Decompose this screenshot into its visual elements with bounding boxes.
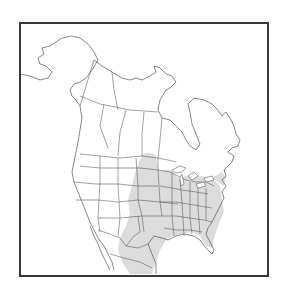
range-map [0,0,289,294]
